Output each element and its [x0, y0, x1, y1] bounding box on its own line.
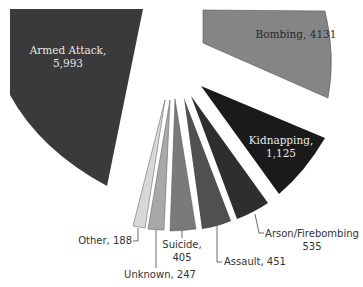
- label-kidnapping: Kidnapping, 1,125: [245, 134, 317, 160]
- leader-line-assault: [217, 226, 222, 262]
- leader-line-other: [133, 228, 138, 241]
- slice-bombing: [203, 10, 331, 98]
- label-kidnapping-name: Kidnapping,: [245, 134, 317, 147]
- slice-armed-attack: [10, 9, 143, 186]
- label-armed-attack-name: Armed Attack,: [18, 44, 118, 57]
- label-armed-attack-value: 5,993: [18, 57, 118, 70]
- label-kidnapping-value: 1,125: [245, 147, 317, 160]
- label-arson: Arson/Firebombing 535: [264, 227, 360, 253]
- slice-suicide: [170, 99, 196, 231]
- label-arson-value: 535: [264, 240, 360, 253]
- label-bombing: Bombing, 4131: [246, 28, 346, 41]
- label-arson-name: Arson/Firebombing: [264, 227, 360, 240]
- label-unknown: Unknown, 247: [120, 268, 200, 281]
- label-suicide: Suicide, 405: [160, 238, 204, 264]
- pie-chart: Armed Attack, 5,993 Bombing, 4131 Kidnap…: [0, 0, 363, 287]
- leader-line-arson: [255, 214, 264, 233]
- label-assault: Assault, 451: [224, 255, 292, 268]
- label-other: Other, 188: [74, 234, 132, 247]
- label-armed-attack: Armed Attack, 5,993: [18, 44, 118, 70]
- label-suicide-value: 405: [160, 251, 204, 264]
- label-suicide-name: Suicide,: [160, 238, 204, 251]
